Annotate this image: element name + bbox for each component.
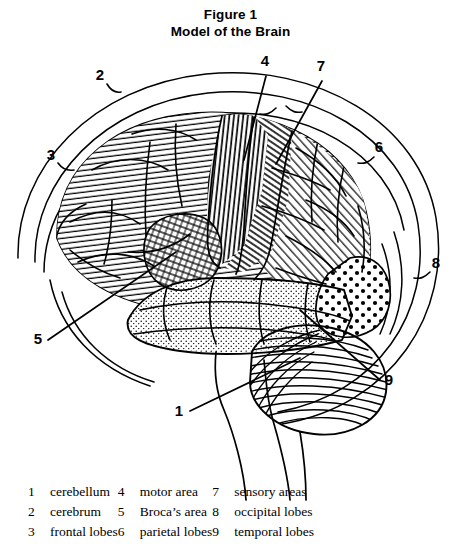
legend-label: frontal lobes: [50, 522, 118, 542]
legend-row: 1 cerebellum 4 motor area 7 sensory area…: [28, 482, 314, 502]
legend-label: motor area: [140, 482, 212, 502]
legend-label: sensory areas: [234, 482, 314, 502]
legend-number: 7: [212, 482, 234, 502]
legend-label: parietal lobes: [140, 522, 212, 542]
callout-5: 5: [34, 330, 42, 347]
callout-3: 3: [47, 146, 55, 163]
legend-table: 1 cerebellum 4 motor area 7 sensory area…: [28, 482, 314, 542]
legend-number: 6: [118, 522, 140, 542]
brace-8: [414, 272, 430, 278]
callout-9: 9: [385, 371, 393, 388]
brainstem: [215, 352, 306, 500]
legend-number: 1: [28, 482, 50, 502]
brace-4b: [286, 106, 302, 112]
callout-4: 4: [261, 52, 270, 69]
legend-label: cerebrum: [50, 502, 118, 522]
brace-3: [58, 163, 74, 170]
callout-1: 1: [175, 402, 183, 419]
legend-number: 8: [212, 502, 234, 522]
brace-4: [260, 108, 276, 114]
legend-row: 2 cerebrum 5 Broca’s area 8 occipital lo…: [28, 502, 314, 522]
callout-2: 2: [96, 66, 104, 83]
legend-number: 2: [28, 502, 50, 522]
legend-row: 3 frontal lobes 6 parietal lobes 9 tempo…: [28, 522, 314, 542]
legend-label: cerebellum: [50, 482, 118, 502]
legend-number: 5: [118, 502, 140, 522]
callout-8: 8: [432, 254, 440, 271]
brain-diagram: 2 3 4 7 6 8 5 9 1: [0, 0, 461, 546]
legend-number: 9: [212, 522, 234, 542]
callout-6: 6: [375, 138, 383, 155]
legend: 1 cerebellum 4 motor area 7 sensory area…: [0, 482, 461, 542]
callout-7: 7: [317, 57, 325, 74]
legend-label: occipital lobes: [234, 502, 314, 522]
legend-number: 3: [28, 522, 50, 542]
legend-label: Broca’s area: [140, 502, 212, 522]
legend-label: temporal lobes: [234, 522, 314, 542]
legend-number: 4: [118, 482, 140, 502]
brace-2: [107, 84, 121, 92]
